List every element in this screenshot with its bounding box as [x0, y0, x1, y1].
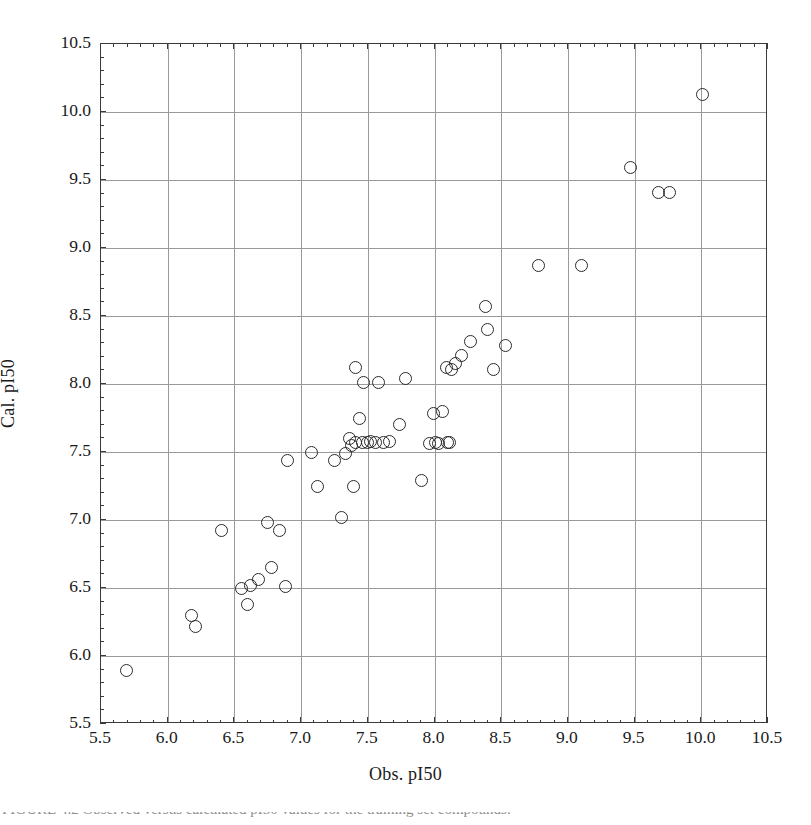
- y-axis-tick: [100, 519, 106, 520]
- x-axis-minor-tick: [127, 720, 128, 724]
- y-axis-tick-label: 5.5: [8, 714, 100, 732]
- x-axis-top-minor-tick: [407, 43, 408, 47]
- x-axis-top-tick: [634, 43, 635, 49]
- x-axis-tick: [500, 717, 501, 723]
- y-axis-minor-tick: [100, 641, 104, 642]
- x-axis-minor-tick: [540, 720, 541, 724]
- x-axis-minor-tick: [754, 720, 755, 724]
- y-axis-minor-tick: [100, 329, 104, 330]
- x-axis-minor-tick: [674, 720, 675, 724]
- y-axis-minor-tick: [100, 193, 104, 194]
- gridline-horizontal: [101, 656, 766, 657]
- y-axis-tick-label: 9.0: [8, 238, 100, 256]
- x-axis-tick: [233, 717, 234, 723]
- x-axis-tick-label: 9.5: [623, 729, 645, 747]
- x-axis-tick-label: 8.5: [489, 729, 511, 747]
- x-axis-top-minor-tick: [207, 43, 208, 47]
- x-axis-top-minor-tick: [180, 43, 181, 47]
- x-axis-minor-tick: [207, 720, 208, 724]
- x-axis-top-minor-tick: [740, 43, 741, 47]
- x-axis-tick-label: 6.0: [156, 729, 178, 747]
- x-axis-minor-tick: [247, 720, 248, 724]
- x-axis-tick-label: 7.0: [289, 729, 311, 747]
- x-axis-top-minor-tick: [127, 43, 128, 47]
- y-axis-tick-label: 7.5: [8, 442, 100, 460]
- x-axis-minor-tick: [260, 720, 261, 724]
- data-point: [252, 573, 265, 586]
- x-axis-minor-tick: [380, 720, 381, 724]
- y-axis-minor-tick: [100, 505, 104, 506]
- x-axis-tick: [567, 717, 568, 723]
- x-axis-top-minor-tick: [647, 43, 648, 47]
- x-axis-top-minor-tick: [754, 43, 755, 47]
- x-axis-top-minor-tick: [714, 43, 715, 47]
- x-axis-top-tick: [767, 43, 768, 49]
- y-axis-minor-tick: [100, 288, 104, 289]
- x-axis-top-minor-tick: [247, 43, 248, 47]
- x-axis-top-minor-tick: [393, 43, 394, 47]
- gridline-vertical: [234, 44, 235, 722]
- gridline-vertical: [168, 44, 169, 722]
- x-axis-top-tick: [300, 43, 301, 49]
- y-axis-minor-tick: [100, 125, 104, 126]
- x-axis-top-minor-tick: [540, 43, 541, 47]
- y-axis-minor-tick: [100, 342, 104, 343]
- x-axis-top-minor-tick: [327, 43, 328, 47]
- data-point: [532, 259, 545, 272]
- data-point: [120, 664, 133, 677]
- x-axis-top-minor-tick: [527, 43, 528, 47]
- gridline-vertical: [701, 44, 702, 722]
- y-axis-minor-tick: [100, 492, 104, 493]
- y-axis-minor-tick: [100, 301, 104, 302]
- x-axis-top-minor-tick: [687, 43, 688, 47]
- x-axis-minor-tick: [420, 720, 421, 724]
- x-axis-minor-tick: [140, 720, 141, 724]
- x-axis-tick: [367, 717, 368, 723]
- data-point: [372, 376, 385, 389]
- y-axis-minor-tick: [100, 261, 104, 262]
- x-axis-minor-tick: [740, 720, 741, 724]
- x-axis-title: Obs. pI50: [0, 764, 811, 785]
- y-axis-minor-tick: [100, 628, 104, 629]
- x-axis-top-minor-tick: [554, 43, 555, 47]
- y-axis-minor-tick: [100, 410, 104, 411]
- y-axis-tick-label: 7.0: [8, 510, 100, 528]
- x-axis-minor-tick: [153, 720, 154, 724]
- y-axis-minor-tick: [100, 397, 104, 398]
- data-point: [347, 480, 360, 493]
- data-point: [281, 454, 294, 467]
- x-axis-top-minor-tick: [353, 43, 354, 47]
- x-axis-minor-tick: [327, 720, 328, 724]
- y-axis-minor-tick: [100, 356, 104, 357]
- y-axis-tick-label: 10.5: [8, 34, 100, 52]
- x-axis-top-minor-tick: [420, 43, 421, 47]
- x-axis-top-tick: [100, 43, 101, 49]
- gridline-horizontal: [101, 180, 766, 181]
- x-axis-minor-tick: [594, 720, 595, 724]
- data-point: [415, 474, 428, 487]
- y-axis-tick-label: 6.5: [8, 578, 100, 596]
- x-axis-top-tick: [233, 43, 234, 49]
- x-axis-tick: [634, 717, 635, 723]
- x-axis-top-tick: [500, 43, 501, 49]
- data-point: [273, 524, 286, 537]
- data-point: [575, 259, 588, 272]
- x-axis-minor-tick: [554, 720, 555, 724]
- x-axis-top-tick: [700, 43, 701, 49]
- x-axis-top-minor-tick: [260, 43, 261, 47]
- y-axis-tick-label: 8.5: [8, 306, 100, 324]
- y-axis-minor-tick: [100, 369, 104, 370]
- data-point: [189, 620, 202, 633]
- y-axis-minor-tick: [100, 274, 104, 275]
- y-axis-minor-tick: [100, 57, 104, 58]
- data-point: [487, 363, 500, 376]
- x-axis-minor-tick: [514, 720, 515, 724]
- x-axis-minor-tick: [487, 720, 488, 724]
- x-axis-top-tick: [167, 43, 168, 49]
- y-axis-tick-label: 6.0: [8, 646, 100, 664]
- x-axis-minor-tick: [180, 720, 181, 724]
- y-axis-tick: [100, 655, 106, 656]
- x-axis-minor-tick: [607, 720, 608, 724]
- data-point: [335, 511, 348, 524]
- data-point: [436, 405, 449, 418]
